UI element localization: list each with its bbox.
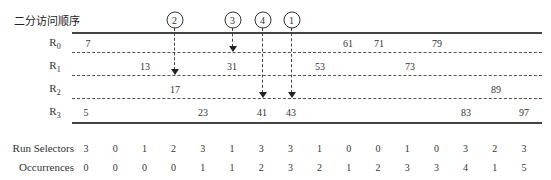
access-arrow-1 — [291, 28, 292, 93]
run-value: 43 — [286, 107, 296, 118]
arrow-down-icon — [259, 92, 267, 98]
occurrence-cell: 0 — [84, 162, 89, 173]
occurrence-cell: 2 — [376, 162, 381, 173]
run-value: 31 — [227, 61, 237, 72]
run-selector-cell: 1 — [230, 143, 235, 154]
occurrences-label: Occurrences — [0, 161, 74, 173]
run-selector-cell: 2 — [171, 143, 176, 154]
access-order-badge-3: 3 — [224, 12, 241, 29]
arrow-down-icon — [229, 46, 237, 52]
access-order-badge-1: 1 — [283, 12, 300, 29]
run-selector-cell: 0 — [434, 143, 439, 154]
row-label-r3: R3 — [40, 105, 70, 120]
run-selector-cell: 3 — [259, 143, 264, 154]
row-divider-0 — [72, 52, 542, 53]
run-value: 17 — [170, 84, 180, 95]
occurrence-cell: 2 — [259, 162, 264, 173]
run-value: 97 — [519, 107, 529, 118]
run-selector-cell: 3 — [463, 143, 468, 154]
arrow-down-icon — [288, 92, 296, 98]
occurrence-cell: 1 — [492, 162, 497, 173]
occurrence-cell: 1 — [230, 162, 235, 173]
run-selector-cell: 3 — [522, 143, 527, 154]
run-selector-cell: 0 — [113, 143, 118, 154]
occurrence-cell: 3 — [434, 162, 439, 173]
row-label-r0: R0 — [40, 36, 70, 51]
run-selector-cell: 1 — [405, 143, 410, 154]
row-label-r2: R2 — [40, 82, 70, 97]
run-selector-cell: 2 — [492, 143, 497, 154]
occurrence-cell: 3 — [405, 162, 410, 173]
run-value: 7 — [86, 38, 91, 49]
occurrence-cell: 4 — [463, 162, 468, 173]
run-value: 89 — [491, 84, 501, 95]
run-value: 83 — [461, 107, 471, 118]
occurrence-cell: 1 — [200, 162, 205, 173]
access-order-badge-4: 4 — [254, 12, 271, 29]
run-value: 41 — [257, 107, 267, 118]
run-selectors-label: Run Selectors — [0, 142, 74, 154]
occurrence-cell: 5 — [522, 162, 527, 173]
run-selector-cell: 1 — [142, 143, 147, 154]
bottom-rule — [72, 122, 542, 124]
diagram-title: 二分访问顺序 — [14, 12, 80, 28]
run-selector-cell: 0 — [346, 143, 351, 154]
row-divider-2 — [72, 98, 542, 99]
top-rule — [72, 32, 542, 34]
occurrence-cell: 0 — [113, 162, 118, 173]
run-value: 71 — [374, 38, 384, 49]
run-value: 53 — [315, 61, 325, 72]
occurrence-cell: 3 — [288, 162, 293, 173]
run-value: 79 — [432, 38, 442, 49]
access-arrow-2 — [174, 28, 175, 70]
access-arrow-3 — [232, 28, 233, 47]
occurrence-cell: 0 — [142, 162, 147, 173]
row-label-r1: R1 — [40, 59, 70, 74]
run-value: 13 — [140, 61, 150, 72]
run-selector-cell: 3 — [84, 143, 89, 154]
run-value: 73 — [405, 61, 415, 72]
occurrence-cell: 2 — [317, 162, 322, 173]
occurrence-cell: 1 — [346, 162, 351, 173]
run-selector-cell: 1 — [317, 143, 322, 154]
run-selector-cell: 3 — [200, 143, 205, 154]
occurrence-cell: 0 — [171, 162, 176, 173]
run-selector-cell: 3 — [288, 143, 293, 154]
arrow-down-icon — [171, 69, 179, 75]
run-value: 61 — [343, 38, 353, 49]
run-value: 5 — [84, 107, 89, 118]
access-order-badge-2: 2 — [166, 12, 183, 29]
row-divider-1 — [72, 75, 542, 76]
access-arrow-4 — [262, 28, 263, 93]
run-value: 23 — [198, 107, 208, 118]
run-selector-cell: 0 — [376, 143, 381, 154]
